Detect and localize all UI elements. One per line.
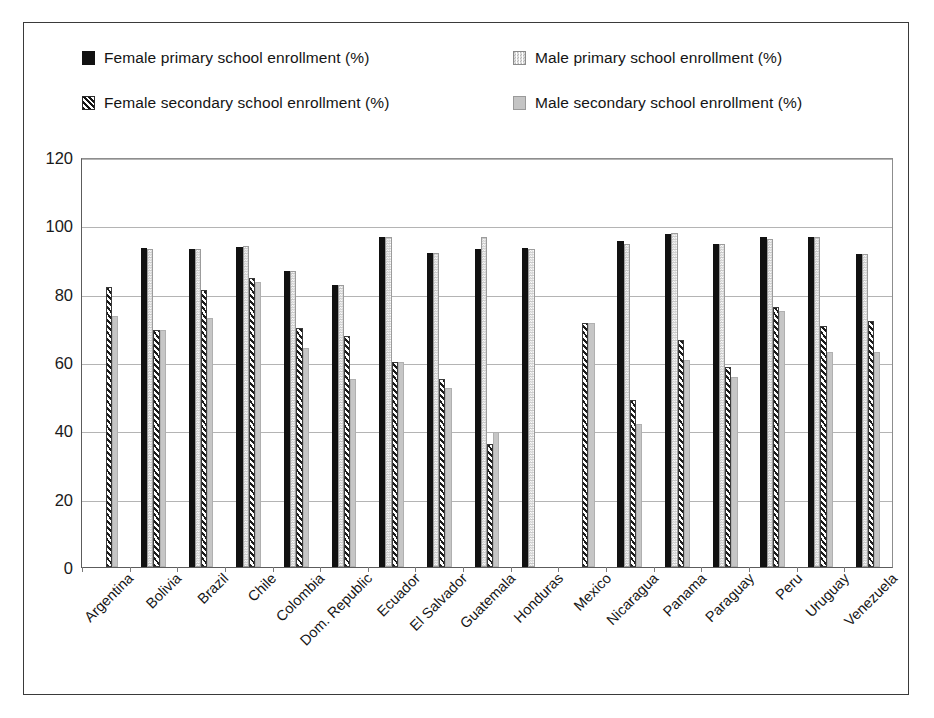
bar-male-secondary[interactable] — [350, 379, 356, 567]
bar-male-secondary[interactable] — [779, 311, 785, 567]
x-label-honduras: Honduras — [510, 570, 566, 626]
x-axis-tick-labels: ArgentinaBoliviaBrazilChileColombiaDom. … — [81, 570, 893, 690]
x-label-argentina: Argentina — [81, 570, 136, 625]
bar-groups — [82, 159, 892, 567]
bar-group-brazil — [177, 159, 225, 567]
bar-male-primary[interactable] — [528, 249, 534, 567]
bar-male-secondary[interactable] — [636, 424, 642, 568]
x-label-paraguay: Paraguay — [702, 570, 757, 625]
bar-male-secondary[interactable] — [207, 318, 213, 567]
legend-swatch-female-primary-icon — [82, 51, 95, 65]
bar-group-honduras — [511, 159, 559, 567]
legend-swatch-male-primary-icon — [513, 51, 526, 65]
y-tick-40: 40 — [55, 422, 73, 441]
y-tick-120: 120 — [45, 149, 73, 168]
bar-group-nicaragua — [606, 159, 654, 567]
bar-male-secondary[interactable] — [160, 330, 166, 567]
bar-male-secondary[interactable] — [588, 323, 594, 567]
bar-male-secondary[interactable] — [493, 432, 499, 567]
bar-male-secondary[interactable] — [827, 352, 833, 567]
bar-group-uruguay — [797, 159, 845, 567]
bar-group-peru — [749, 159, 797, 567]
chart-legend: Female primary school enrollment (%) Mal… — [24, 35, 910, 131]
bar-group-guatemala — [463, 159, 511, 567]
bar-male-secondary[interactable] — [731, 377, 737, 567]
legend-label-female-secondary: Female secondary school enrollment (%) — [104, 94, 390, 112]
legend-item-male-secondary[interactable]: Male secondary school enrollment (%) — [513, 94, 802, 112]
bar-group-argentina — [82, 159, 130, 567]
y-tick-20: 20 — [55, 490, 73, 509]
legend-item-female-primary[interactable]: Female primary school enrollment (%) — [82, 49, 369, 67]
y-axis-tick-labels: 120100806040200 — [24, 133, 79, 568]
legend-label-male-secondary: Male secondary school enrollment (%) — [535, 94, 802, 112]
bar-group-venezuela — [844, 159, 892, 567]
x-label-chile: Chile — [245, 570, 280, 605]
bar-male-secondary[interactable] — [255, 282, 261, 567]
bar-male-secondary[interactable] — [684, 360, 690, 567]
bar-group-panama — [654, 159, 702, 567]
x-label-bolivia: Bolivia — [142, 570, 184, 612]
bar-male-secondary[interactable] — [874, 352, 880, 567]
legend-label-female-primary: Female primary school enrollment (%) — [104, 49, 369, 67]
x-label-peru: Peru — [772, 570, 805, 603]
bar-group-dom-republic — [320, 159, 368, 567]
y-tick-60: 60 — [55, 354, 73, 373]
bar-group-el-salvador — [415, 159, 463, 567]
legend-swatch-male-secondary-icon — [513, 96, 526, 110]
bar-group-ecuador — [368, 159, 416, 567]
bar-group-paraguay — [701, 159, 749, 567]
bar-group-bolivia — [130, 159, 178, 567]
y-tick-0: 0 — [64, 559, 73, 578]
chart-plot-area: 120100806040200 ArgentinaBoliviaBrazilCh… — [24, 133, 910, 693]
bar-male-secondary[interactable] — [445, 388, 451, 567]
legend-label-male-primary: Male primary school enrollment (%) — [535, 49, 782, 67]
chart-figure: Female primary school enrollment (%) Mal… — [23, 22, 909, 695]
bar-group-mexico — [558, 159, 606, 567]
legend-item-female-secondary[interactable]: Female secondary school enrollment (%) — [82, 94, 390, 112]
plot-axes — [81, 158, 893, 568]
bar-group-colombia — [273, 159, 321, 567]
x-label-mexico: Mexico — [570, 570, 614, 614]
legend-item-male-primary[interactable]: Male primary school enrollment (%) — [513, 49, 782, 67]
legend-swatch-female-secondary-icon — [82, 96, 95, 110]
bar-male-secondary[interactable] — [398, 362, 404, 567]
bar-group-chile — [225, 159, 273, 567]
y-tick-100: 100 — [45, 217, 73, 236]
x-label-brazil: Brazil — [195, 570, 232, 607]
bar-male-secondary[interactable] — [112, 316, 118, 567]
bar-male-secondary[interactable] — [303, 348, 309, 567]
y-tick-80: 80 — [55, 285, 73, 304]
